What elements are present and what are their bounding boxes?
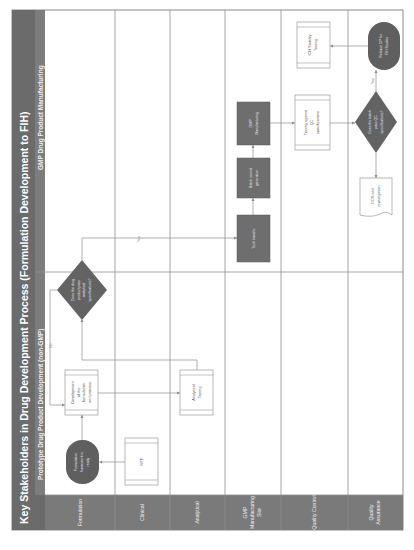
lane-label-gmp-site-2: Manufacturing	[249, 496, 255, 529]
node-text: specifications	[316, 111, 320, 134]
process-box	[180, 370, 213, 415]
lane-label-gmp-site-3: Site	[256, 508, 262, 517]
node-text: specifications?	[380, 110, 384, 133]
node-qc-testing: Testing against QC specifications	[295, 95, 330, 150]
node-text: formulation	[82, 383, 86, 402]
diagram-rotated-group: Key Stakeholders in Drug Development Pro…	[12, 10, 403, 530]
process-box	[237, 102, 270, 145]
node-mtf: MTF	[125, 438, 158, 485]
node-text: Formulation	[74, 453, 78, 472]
phase-label-gmp: GMP Drug Product Manufacturing	[37, 65, 45, 170]
connector-label-yes: Yes	[371, 78, 375, 84]
node-text: OOS and	[371, 188, 375, 204]
terminator-shape	[368, 22, 400, 70]
node-ich-stability: ICH Stability Testing	[297, 22, 330, 68]
node-text: Release DP for	[379, 33, 383, 58]
node-text: Analytical	[192, 384, 196, 400]
node-text: ICH Stability	[308, 34, 312, 55]
node-text: QC	[310, 119, 314, 125]
node-gmp-manufacturing: GMP Manufacturing	[237, 102, 270, 145]
node-text: Testing	[314, 39, 318, 51]
node-release-dp: Release DP for FIH Studies	[368, 22, 400, 70]
node-text: of the	[77, 388, 81, 398]
lane-label-qa-2: Assurance	[375, 500, 381, 525]
connector-label-yes: Yes	[137, 236, 141, 242]
node-formulation-ready: Formulation framework is ready	[66, 440, 99, 484]
node-batch-record: Batch record generation	[237, 158, 270, 198]
node-text: GMP	[249, 119, 253, 128]
lane-labels-bg	[45, 495, 403, 530]
connector-label-no: No	[49, 343, 53, 348]
lane-label-quality-control: Quality Control	[311, 495, 317, 529]
node-text: framework is	[80, 452, 84, 472]
node-development: Development of the formulation and proce…	[65, 370, 98, 415]
lane-label-gmp-site-1: GMP	[242, 506, 248, 518]
node-text: pass QC	[374, 115, 378, 129]
node-text: ready	[86, 457, 90, 466]
node-text: specifications?	[88, 278, 92, 301]
node-text: Testing against	[304, 109, 308, 135]
node-text: generation	[255, 170, 259, 187]
node-analytical-testing: Analytical Testing	[180, 370, 213, 415]
swimlane-diagram: Key Stakeholders in Drug Development Pro…	[0, 0, 414, 550]
document-shape	[360, 178, 392, 216]
lane-label-clinical: Clinical	[139, 504, 145, 521]
phase-label-prototype: Prototype Drug Product Development (non-…	[37, 329, 45, 480]
node-text: investigation	[377, 185, 381, 206]
lane-label-formulation: Formulation	[77, 499, 83, 527]
node-text: Batch record	[249, 168, 253, 188]
node-text: Does the drug	[71, 279, 75, 301]
node-text: product pass	[77, 280, 81, 300]
diagram-title: Key Stakeholders in Drug Development Pro…	[18, 112, 30, 525]
node-text: Tech transfer	[252, 228, 256, 249]
node-text: analytical	[82, 282, 86, 297]
node-text: Manufacturing	[255, 112, 259, 134]
lane-label-qa-1: Quality	[368, 504, 374, 521]
node-text: and process	[88, 382, 92, 403]
node-tech-transfer: Tech transfer	[237, 215, 270, 262]
lane-label-analytical: Analytical	[194, 501, 200, 523]
process-box	[237, 158, 270, 198]
node-oos-investigation: OOS and investigation	[360, 178, 392, 216]
node-text: MTF	[140, 457, 144, 465]
node-text: Testing	[198, 386, 202, 398]
node-text: FIH Studies	[385, 37, 389, 56]
node-text: Does the batch	[368, 110, 372, 134]
node-text: Development	[71, 380, 75, 403]
